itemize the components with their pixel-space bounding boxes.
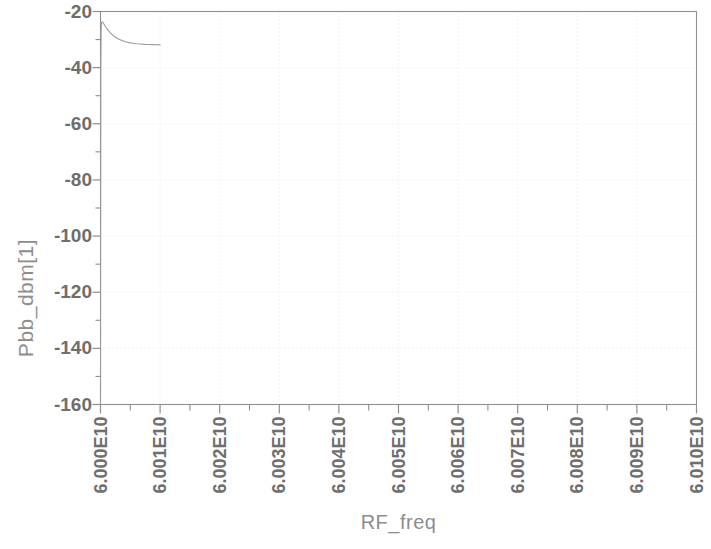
y-axis-title: Pbb_dbm[1] <box>13 148 39 448</box>
x-axis-tick-labels: 6.000E106.001E106.002E106.003E106.004E10… <box>0 0 711 549</box>
x-axis-title: RF_freq <box>100 511 697 534</box>
chart-container: -20-40-60-80-100-120-140-160 6.000E106.0… <box>0 0 711 549</box>
